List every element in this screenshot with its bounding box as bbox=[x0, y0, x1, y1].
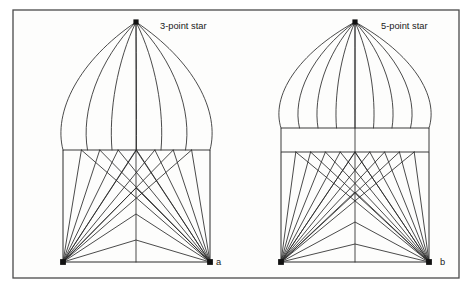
apex-node bbox=[133, 19, 138, 24]
panel-b-caption: 5-point star bbox=[381, 21, 428, 31]
panel-a-letter: a bbox=[216, 257, 222, 267]
apex-node bbox=[352, 19, 357, 24]
base-left-node bbox=[278, 259, 284, 265]
base-left-node bbox=[60, 259, 66, 265]
panel-a-caption: 3-point star bbox=[160, 21, 207, 31]
base-right-node bbox=[426, 259, 432, 265]
star-pattern-diagram: 3-point star 5-point star a b bbox=[0, 0, 471, 293]
panel-b-letter: b bbox=[440, 257, 445, 267]
base-right-node bbox=[207, 259, 213, 265]
diagram-frame bbox=[13, 10, 459, 278]
figure-root: 3-point star 5-point star a b bbox=[0, 0, 471, 293]
